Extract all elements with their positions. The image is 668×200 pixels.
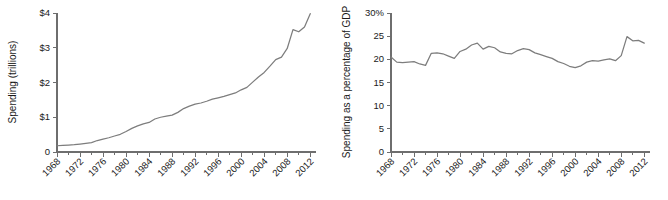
x-tick-label: 2012 [293,156,316,179]
x-tick-label: 1988 [155,156,178,179]
x-tick-label: 2004 [581,156,604,179]
x-tick-label: 2000 [558,156,581,179]
left-y-axis-title: Spending (trillions) [7,41,18,124]
y-tick-label: 30% [365,7,385,18]
left-x-tick-marks [57,152,310,157]
x-tick-label: 2008 [604,156,627,179]
y-tick-label: 10 [373,100,384,111]
x-tick-label: 1972 [63,156,86,179]
right-y-axis-title: Spending as a percentage of GDP [341,6,352,159]
y-tick-label: 5 [379,123,384,134]
chart-panel-spending-trillions: Spending (trillions) 0$1$2$3$4 196819721… [0,0,334,200]
left-data-series-line [57,14,310,146]
x-tick-label: 1988 [489,156,512,179]
y-tick-label: 25 [373,30,384,41]
x-tick-label: 2012 [627,156,650,179]
x-tick-label: 1992 [512,156,535,179]
x-tick-label: 1984 [466,156,489,179]
x-tick-label: 2004 [247,156,270,179]
x-tick-label: 1992 [178,156,201,179]
x-tick-label: 1968 [374,156,397,179]
x-tick-label: 2000 [224,156,247,179]
y-tick-label: 20 [373,53,384,64]
y-tick-label: 0 [45,146,50,157]
right-axis-lines [391,13,650,152]
left-y-tick-labels: 0$1$2$3$4 [39,7,50,157]
x-tick-label: 1980 [443,156,466,179]
left-x-tick-labels: 1968197219761980198419881992199620002004… [40,156,316,179]
y-tick-label: $4 [39,7,50,18]
right-x-tick-marks [391,152,644,157]
y-tick-label: $2 [39,77,50,88]
right-x-tick-labels: 1968197219761980198419881992199620002004… [374,156,650,179]
right-y-tick-labels: 051015202530% [365,7,385,157]
left-y-tick-marks [53,13,57,152]
right-chart-svg: Spending as a percentage of GDP 05101520… [334,0,668,200]
x-tick-label: 2008 [270,156,293,179]
left-axis-lines [57,13,316,152]
spending-charts-figure: Spending (trillions) 0$1$2$3$4 196819721… [0,0,668,200]
x-tick-label: 1996 [201,156,224,179]
x-tick-label: 1976 [420,156,443,179]
left-chart-svg: Spending (trillions) 0$1$2$3$4 196819721… [0,0,334,200]
y-tick-label: $3 [39,42,50,53]
y-tick-label: $1 [39,111,50,122]
right-y-axis-title-group: Spending as a percentage of GDP [341,6,352,159]
x-tick-label: 1984 [132,156,155,179]
right-data-series-line [391,37,644,68]
chart-panel-spending-gdp-percent: Spending as a percentage of GDP 05101520… [334,0,668,200]
x-tick-label: 1976 [86,156,109,179]
right-y-tick-marks [387,13,391,152]
x-tick-label: 1996 [535,156,558,179]
y-tick-label: 15 [373,77,384,88]
x-tick-label: 1972 [397,156,420,179]
x-tick-label: 1980 [109,156,132,179]
left-y-axis-title-group: Spending (trillions) [7,41,18,124]
x-tick-label: 1968 [40,156,63,179]
y-tick-label: 0 [379,146,384,157]
